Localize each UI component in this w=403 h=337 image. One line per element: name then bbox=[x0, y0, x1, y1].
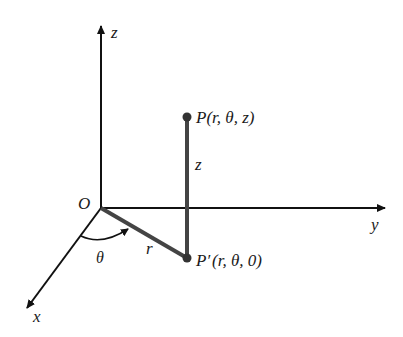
point-p-prime-name: P′ bbox=[195, 251, 210, 270]
theta-label: θ bbox=[96, 249, 104, 266]
point-p-label: P(r, θ, z) bbox=[195, 108, 255, 127]
y-axis-label: y bbox=[369, 215, 379, 234]
cylindrical-coordinates-diagram: z y x O θ r z P(r, θ, z) P′(r, θ, 0) bbox=[0, 0, 403, 337]
point-p-prime-label: P′(r, θ, 0) bbox=[195, 251, 262, 270]
r-segment bbox=[101, 208, 187, 258]
origin-label: O bbox=[78, 194, 90, 213]
z-axis-label: z bbox=[110, 23, 118, 42]
point-p bbox=[183, 113, 192, 122]
point-p-prime bbox=[183, 254, 192, 263]
x-axis-label: x bbox=[32, 307, 41, 326]
point-p-name: P bbox=[195, 108, 206, 127]
r-label: r bbox=[146, 239, 153, 258]
point-p-prime-coords: (r, θ, 0) bbox=[212, 251, 262, 270]
z-segment-label: z bbox=[194, 155, 202, 174]
theta-arc-icon bbox=[81, 229, 128, 240]
point-p-coords: (r, θ, z) bbox=[206, 108, 254, 127]
x-axis bbox=[27, 208, 101, 308]
